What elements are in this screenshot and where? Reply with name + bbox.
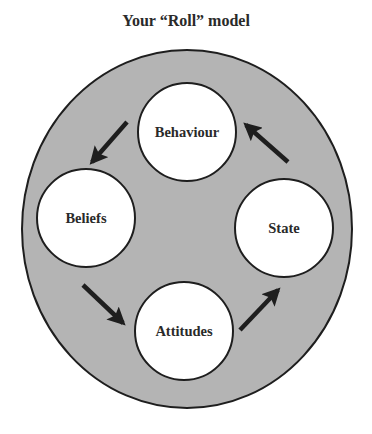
node-label: Beliefs [65,210,106,226]
roll-model-diagram: BehaviourBeliefsAttitudesState [0,0,372,434]
node-label: Attitudes [155,323,213,339]
node-beliefs: Beliefs [37,169,135,267]
node-attitudes: Attitudes [135,282,233,380]
node-behaviour: Behaviour [138,83,236,181]
node-state: State [235,179,333,277]
node-label: State [268,220,300,236]
node-label: Behaviour [155,124,220,140]
